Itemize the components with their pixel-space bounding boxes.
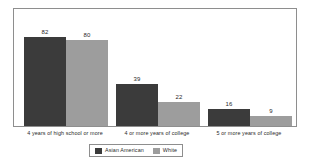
bar-asian-american-highschool [24,37,66,126]
plot-area: 82 80 39 22 16 9 [14,9,296,126]
bar-asian-american-college4 [116,84,158,126]
legend-swatch-asian-american-icon [95,148,102,154]
bar-label-white-college5: 9 [251,107,291,115]
bar-asian-american-college5 [208,109,250,126]
bar-label-white-highschool: 80 [67,31,107,39]
bar-label-asian-american-college4: 39 [117,75,157,83]
legend-label-asian-american: Asian American [105,147,144,154]
legend-swatch-white-icon [153,148,160,154]
legend-entry-white: White [153,147,177,154]
bar-white-college4 [158,102,200,126]
bar-white-highschool [66,40,108,126]
legend-entry-asian-american: Asian American [95,147,144,154]
bar-label-asian-american-highschool: 82 [25,28,65,36]
bar-label-white-college4: 22 [159,93,199,101]
legend-label-white: White [163,147,177,154]
bar-label-asian-american-college5: 16 [209,100,249,108]
category-label-college5: 5 or more years of college [194,129,304,137]
chart-legend: Asian American White [89,144,183,157]
bar-white-college5 [250,116,292,126]
bar-chart: 82 80 39 22 16 9 4 years of high school … [0,0,309,163]
